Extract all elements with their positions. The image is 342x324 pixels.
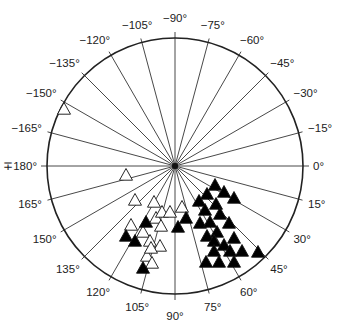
- spoke-line: [175, 100, 289, 166]
- angle-labels: 0°15°30°45°60°75°90°105°120°135°150°165°…: [3, 12, 332, 322]
- filled-triangle-marker: [228, 256, 241, 268]
- spoke-line: [47, 132, 175, 166]
- filled-triangle-marker: [213, 256, 226, 268]
- angle-label: 105°: [125, 301, 149, 313]
- filled-triangle-marker: [120, 230, 133, 242]
- filled-triangle-marker: [252, 246, 265, 258]
- spoke-line: [175, 73, 268, 166]
- angle-label: 60°: [240, 286, 257, 298]
- spoke-line: [82, 73, 175, 166]
- spoke-line: [47, 166, 175, 200]
- angle-label: −165°: [11, 122, 42, 134]
- open-triangle-marker: [176, 201, 189, 213]
- center-point: [172, 163, 178, 169]
- angle-label: 150°: [33, 233, 57, 245]
- angle-label: −105°: [122, 19, 153, 31]
- filled-triangle-marker: [180, 212, 193, 224]
- angle-label: −135°: [49, 57, 80, 69]
- angle-label: −150°: [26, 87, 57, 99]
- open-triangle-markers: [58, 103, 189, 269]
- spoke-line: [141, 38, 175, 166]
- angle-label: −45°: [270, 57, 294, 69]
- angle-label: 135°: [56, 263, 80, 275]
- angle-label: −30°: [293, 87, 317, 99]
- angle-label: 15°: [308, 198, 325, 210]
- spoke-line: [175, 166, 303, 200]
- angle-label: −15°: [308, 122, 332, 134]
- angle-label: ∓180°: [3, 160, 37, 172]
- filled-triangle-marker: [200, 256, 213, 268]
- angle-label: 30°: [293, 233, 310, 245]
- open-triangle-marker: [148, 196, 161, 208]
- angle-label: −75°: [201, 19, 225, 31]
- spoke-line: [175, 132, 303, 166]
- spoke-line: [175, 38, 209, 166]
- open-triangle-marker: [125, 219, 138, 231]
- angle-label: −90°: [163, 12, 187, 24]
- filled-triangle-marker: [228, 232, 241, 244]
- filled-triangle-marker: [236, 245, 249, 257]
- open-triangle-marker: [129, 194, 142, 206]
- open-triangle-marker: [120, 169, 133, 181]
- spoke-line: [61, 100, 175, 166]
- polar-diagram: 0°15°30°45°60°75°90°105°120°135°150°165°…: [0, 0, 342, 324]
- spoke-line: [175, 52, 241, 166]
- angle-label: 45°: [270, 263, 287, 275]
- filled-triangle-marker: [209, 179, 222, 191]
- angle-label: 165°: [18, 198, 42, 210]
- spoke-line: [109, 52, 175, 166]
- angle-label: 0°: [313, 160, 324, 172]
- angle-label: 75°: [204, 301, 221, 313]
- angle-label: 120°: [86, 286, 110, 298]
- angle-label: 90°: [166, 310, 183, 322]
- angle-label: −120°: [79, 34, 110, 46]
- angle-label: −60°: [240, 34, 264, 46]
